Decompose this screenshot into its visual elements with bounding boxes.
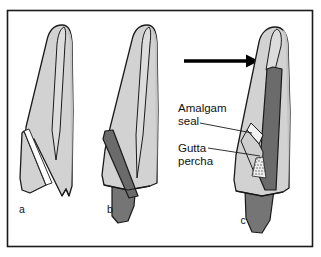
panel-c-letter: c [240,214,245,226]
panel-b-letter: b [107,203,113,215]
amalgam-seal-label-line2: seal [178,115,199,127]
gutta-percha-label-line2: percha [178,155,214,167]
amalgam-seal-label-line1: Amalgam [178,102,227,114]
dental-diagram-svg: a b [0,0,321,257]
figure-root: a b [0,0,321,257]
gutta-percha-label-line1: Gutta [178,142,207,154]
panel-a-letter: a [19,203,25,215]
